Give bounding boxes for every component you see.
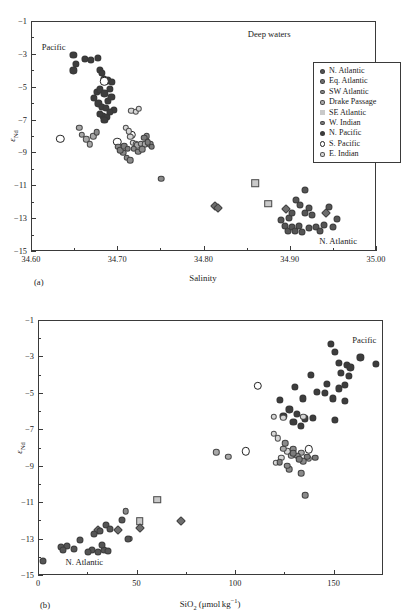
data-point (270, 413, 276, 419)
data-point (213, 204, 223, 214)
y-major-tick (31, 152, 36, 153)
x-major-tick (235, 570, 236, 575)
legend-marker-icon (317, 110, 328, 115)
x-minor-tick (247, 248, 248, 251)
data-point (292, 383, 299, 390)
y-axis-tick-label: −1 (5, 17, 27, 26)
data-point (305, 205, 312, 212)
y-minor-tick (38, 448, 41, 449)
data-point (108, 93, 115, 100)
data-point (122, 508, 129, 515)
x-minor-tick (160, 248, 161, 251)
data-point (312, 454, 319, 461)
data-point (87, 141, 93, 147)
data-point (99, 542, 106, 549)
panel-b-yaxis-title: εNd (14, 431, 26, 465)
y-minor-tick (31, 169, 34, 170)
data-point (323, 380, 330, 387)
data-point (286, 406, 293, 413)
legend-item-se-atlantic[interactable]: SE Atlantic (317, 108, 396, 118)
y-minor-tick (38, 557, 41, 558)
legend-item-s-pacific[interactable]: S. Pacific (317, 139, 396, 149)
data-point (158, 176, 165, 183)
y-minor-tick (38, 520, 41, 521)
x-axis-tick-label: 34.90 (280, 255, 299, 264)
y-minor-tick (31, 70, 34, 71)
data-point (341, 381, 348, 388)
legend-item-sw-atlantic[interactable]: SW Atlantic (317, 87, 396, 97)
data-point (139, 146, 146, 153)
data-point (290, 418, 297, 425)
legend-marker-icon (317, 69, 328, 74)
data-point (327, 340, 334, 347)
y-axis-tick-label: −15 (5, 247, 27, 256)
y-major-tick (38, 393, 43, 394)
data-point (330, 223, 337, 230)
legend-item-drake-passage[interactable]: Drake Passage (317, 97, 396, 107)
legend: N. AtlanticEq. AtlanticSW AtlanticDrake … (313, 62, 401, 163)
panel-a-yaxis-title: εNd (7, 119, 19, 153)
legend-item-e-indian[interactable]: E. Indian (317, 149, 396, 159)
y-axis-tick-label: −15 (12, 571, 34, 580)
data-point (118, 517, 125, 524)
data-point (265, 200, 273, 208)
data-point (70, 51, 77, 58)
data-point (213, 449, 219, 455)
data-point (105, 547, 112, 554)
y-major-tick (31, 21, 36, 22)
data-point (298, 470, 305, 477)
data-point (331, 417, 338, 424)
x-axis-tick-label: 150 (327, 579, 340, 588)
data-point (329, 395, 336, 402)
data-point (276, 397, 283, 404)
legend-item-eq-atlantic[interactable]: Eq. Atlantic (317, 76, 396, 86)
legend-item-label: Eq. Atlantic (328, 76, 368, 86)
y-minor-tick (31, 235, 34, 236)
data-point (304, 453, 311, 460)
y-axis-tick-label: −5 (12, 388, 34, 397)
plot-annotation: N. Atlantic (319, 236, 357, 246)
y-axis-tick-label: −11 (5, 181, 27, 190)
x-major-tick (290, 246, 291, 251)
y-minor-tick (38, 375, 41, 376)
x-major-tick (204, 246, 205, 251)
data-point (77, 536, 84, 543)
legend-item-w-indian[interactable]: W. Indian (317, 118, 396, 128)
y-axis-tick-label: −11 (12, 498, 34, 507)
data-point (309, 414, 316, 421)
legend-item-n-pacific[interactable]: N. Pacific (317, 128, 396, 138)
data-point (337, 369, 344, 376)
data-point (149, 144, 156, 151)
data-point (56, 134, 64, 142)
plot-annotation: Pacific (42, 42, 66, 52)
data-point (321, 389, 328, 396)
legend-item-n-atlantic[interactable]: N. Atlantic (317, 66, 396, 76)
x-minor-tick (74, 248, 75, 251)
legend-item-label: SW Atlantic (328, 87, 369, 97)
legend-marker-icon (317, 141, 328, 147)
data-point (176, 516, 186, 526)
data-point (70, 67, 77, 74)
data-point (280, 414, 286, 420)
x-major-tick (117, 246, 118, 251)
y-axis-tick-label: −13 (5, 214, 27, 223)
legend-item-label: N. Pacific (328, 128, 361, 138)
data-point (242, 447, 250, 455)
data-point (59, 546, 66, 553)
panel-b-label: (b) (40, 600, 50, 610)
legend-marker-icon (317, 131, 328, 136)
data-point (320, 221, 327, 228)
data-point (276, 459, 283, 466)
y-axis-tick-label: −13 (12, 534, 34, 543)
y-major-tick (38, 320, 43, 321)
data-point (307, 371, 314, 378)
y-major-tick (38, 575, 43, 576)
data-point (274, 435, 280, 441)
data-point (357, 354, 364, 361)
panel-b-xaxis-title: SiO2 (μmol kg−1) (180, 597, 241, 611)
data-point (373, 360, 380, 367)
panel-b-datapoints (39, 321, 382, 574)
data-point (71, 545, 78, 552)
data-point (345, 372, 352, 379)
data-point (298, 229, 305, 236)
